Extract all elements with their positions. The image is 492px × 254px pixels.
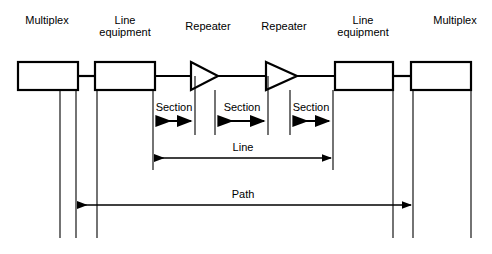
- label-section-1: Section: [156, 101, 193, 113]
- label-repeater-right: Repeater: [261, 20, 306, 32]
- box-line-equipment-left: [95, 62, 155, 90]
- label-line-equipment-left: Line equipment: [99, 14, 150, 38]
- reference-drop-lines: [60, 76, 471, 238]
- diagram-canvas: [0, 0, 492, 254]
- label-multiplex-left: Multiplex: [25, 14, 68, 26]
- label-path: Path: [232, 188, 255, 200]
- label-section-2: Section: [224, 101, 261, 113]
- box-line-equipment-right: [335, 62, 393, 90]
- box-multiplex-left: [18, 62, 78, 90]
- label-repeater-left: Repeater: [185, 20, 230, 32]
- label-multiplex-right: Multiplex: [433, 14, 476, 26]
- label-line-equipment-right: Line equipment: [337, 14, 388, 38]
- box-multiplex-right: [411, 62, 471, 90]
- label-line: Line: [233, 141, 254, 153]
- label-section-3: Section: [293, 101, 330, 113]
- repeater-triangle-right: [266, 62, 297, 90]
- transmission-path-diagram: Multiplex Line equipment Repeater Repeat…: [0, 0, 492, 254]
